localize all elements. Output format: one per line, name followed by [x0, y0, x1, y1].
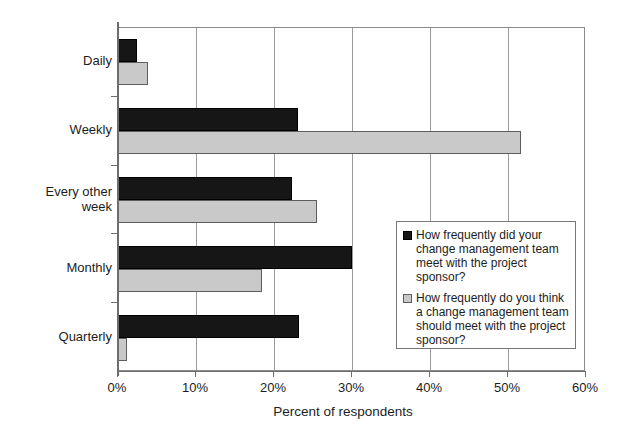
y-axis-tick-label: Monthly — [4, 260, 112, 275]
legend-item[interactable]: How frequently do you think a change man… — [403, 291, 570, 347]
bar — [118, 269, 262, 292]
legend-swatch-light-icon — [403, 294, 412, 303]
bar — [118, 315, 299, 338]
bar — [118, 246, 352, 269]
x-axis-tick — [507, 371, 508, 377]
legend-label: How frequently did your change managemen… — [416, 228, 570, 284]
x-axis-tick-label: 20% — [243, 380, 303, 395]
legend-label: How frequently do you think a change man… — [416, 291, 570, 347]
x-axis-tick — [351, 371, 352, 377]
y-axis-tick — [111, 96, 118, 97]
bar — [118, 338, 127, 361]
bar — [118, 131, 521, 154]
y-axis-labels: DailyWeeklyEvery otherweekMonthlyQuarter… — [0, 0, 112, 442]
y-axis-tick-label: Weekly — [4, 122, 112, 137]
legend: How frequently did your change managemen… — [396, 221, 576, 349]
x-axis-tick-label: 10% — [165, 380, 225, 395]
legend-swatch-dark-icon — [403, 231, 412, 240]
y-axis-tick-label: Daily — [4, 53, 112, 68]
x-axis-title: Percent of respondents — [0, 404, 630, 419]
legend-item[interactable]: How frequently did your change managemen… — [403, 228, 570, 284]
bar — [118, 177, 292, 200]
bar — [118, 200, 317, 223]
bar — [118, 39, 137, 62]
x-axis-tick — [273, 371, 274, 377]
bar-chart: DailyWeeklyEvery otherweekMonthlyQuarter… — [0, 0, 630, 442]
y-axis-tick-label: Quarterly — [4, 329, 112, 344]
x-axis-tick — [117, 371, 118, 377]
bar — [118, 62, 148, 85]
x-axis-tick-label: 30% — [321, 380, 381, 395]
x-axis-tick — [429, 371, 430, 377]
y-axis-line — [117, 22, 119, 376]
y-axis-tick-label: Every otherweek — [4, 184, 112, 214]
x-axis-tick-label: 0% — [87, 380, 147, 395]
y-axis-tick — [111, 165, 118, 166]
gridline — [352, 28, 353, 370]
x-axis-tick — [585, 371, 586, 377]
y-axis-tick — [111, 302, 118, 303]
x-axis-tick-label: 50% — [477, 380, 537, 395]
x-axis-tick-label: 60% — [555, 380, 615, 395]
x-axis-tick-label: 40% — [399, 380, 459, 395]
y-axis-tick — [111, 233, 118, 234]
bar — [118, 108, 298, 131]
x-axis-tick — [195, 371, 196, 377]
